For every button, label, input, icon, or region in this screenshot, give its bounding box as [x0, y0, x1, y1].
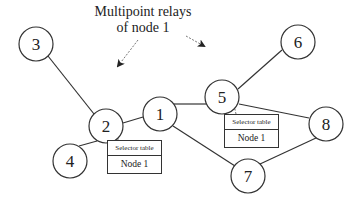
node-1-label: 1: [156, 105, 165, 124]
node-5-label: 5: [218, 88, 227, 107]
node-7: 7: [231, 159, 265, 193]
node-6: 6: [281, 25, 315, 59]
edge-3-2: [48, 56, 94, 114]
node-2: 2: [89, 109, 123, 143]
nodes: 1 2 3 4 5 6 7 8: [19, 25, 343, 193]
mpr-title: Multipoint relays of node 1: [88, 4, 198, 36]
mpr-pointer-arrows: [118, 36, 204, 66]
selector-table-header: Selector table: [108, 141, 161, 156]
node-4: 4: [53, 144, 87, 178]
node-1: 1: [143, 97, 177, 131]
node-5: 5: [205, 80, 239, 114]
edge-2-1: [123, 117, 143, 123]
node-2-label: 2: [102, 117, 111, 136]
node-7-label: 7: [244, 167, 253, 186]
arrow-to-node-2: [118, 40, 138, 66]
node-4-label: 4: [66, 152, 75, 171]
edges: [48, 50, 316, 166]
mpr-title-line1: Multipoint relays: [88, 4, 198, 20]
node-6-label: 6: [294, 33, 303, 52]
node-8: 8: [309, 107, 343, 141]
selector-table-entry: Node 1: [108, 156, 161, 173]
selector-table-header: Selector table: [225, 115, 278, 130]
node-3: 3: [19, 27, 53, 61]
edge-5-6: [238, 50, 282, 89]
mpr-title-line2: of node 1: [88, 20, 198, 36]
node-8-label: 8: [322, 115, 331, 134]
arrow-to-node-5: [186, 36, 204, 46]
node-3-label: 3: [32, 35, 41, 54]
edge-2-4: [79, 141, 97, 146]
selector-table-entry: Node 1: [225, 130, 278, 147]
selector-table-node-5: Selector table Node 1: [224, 114, 279, 148]
selector-table-node-2: Selector table Node 1: [107, 140, 162, 174]
